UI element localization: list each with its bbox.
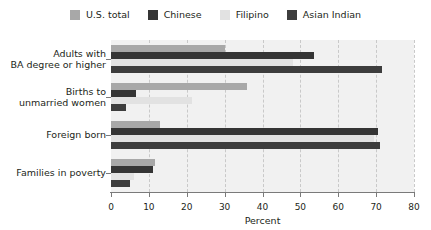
bar[interactable] bbox=[111, 180, 130, 187]
bar[interactable] bbox=[111, 104, 126, 111]
x-tick bbox=[376, 192, 377, 197]
chart-figure: U.S. totalChineseFilipinoAsian Indian 01… bbox=[0, 0, 431, 230]
x-tick-label: 70 bbox=[370, 202, 381, 212]
bar[interactable] bbox=[111, 173, 134, 180]
y-tick bbox=[106, 97, 111, 98]
x-tick bbox=[187, 192, 188, 197]
legend-label: U.S. total bbox=[86, 10, 130, 20]
x-tick bbox=[263, 192, 264, 197]
bar[interactable] bbox=[111, 52, 314, 59]
y-category-label: Births tounmarried women bbox=[19, 86, 106, 109]
bar[interactable] bbox=[111, 59, 293, 66]
legend-swatch-icon bbox=[220, 10, 230, 20]
bar[interactable] bbox=[111, 166, 153, 173]
bar[interactable] bbox=[111, 97, 192, 104]
bar[interactable] bbox=[111, 159, 155, 166]
bar-group bbox=[111, 154, 414, 192]
x-tick bbox=[149, 192, 150, 197]
chart-legend: U.S. totalChineseFilipinoAsian Indian bbox=[0, 10, 431, 20]
bar[interactable] bbox=[111, 83, 247, 90]
y-tick bbox=[106, 173, 111, 174]
y-category-label-line: Foreign born bbox=[46, 129, 106, 141]
x-tick-label: 20 bbox=[181, 202, 192, 212]
legend-swatch-icon bbox=[70, 10, 80, 20]
y-category-label-line: unmarried women bbox=[19, 97, 106, 109]
x-tick-label: 60 bbox=[333, 202, 344, 212]
bar[interactable] bbox=[111, 128, 378, 135]
x-tick-label: 10 bbox=[143, 202, 154, 212]
x-tick bbox=[338, 192, 339, 197]
legend-swatch-icon bbox=[287, 10, 297, 20]
y-tick bbox=[106, 135, 111, 136]
legend-swatch-icon bbox=[148, 10, 158, 20]
y-category-label-line: Adults with bbox=[10, 48, 106, 60]
gridline bbox=[414, 40, 415, 192]
y-category-label-line: BA degree or higher bbox=[10, 59, 106, 71]
y-category-label-line: Families in poverty bbox=[16, 167, 106, 179]
legend-label: Filipino bbox=[236, 10, 269, 20]
legend-item[interactable]: Filipino bbox=[220, 10, 269, 20]
y-category-label-line: Births to bbox=[19, 86, 106, 98]
legend-item[interactable]: Chinese bbox=[148, 10, 202, 20]
bar[interactable] bbox=[111, 121, 160, 128]
y-category-label: Foreign born bbox=[46, 129, 106, 141]
x-tick bbox=[225, 192, 226, 197]
x-tick bbox=[300, 192, 301, 197]
x-tick-label: 50 bbox=[295, 202, 306, 212]
bar[interactable] bbox=[111, 45, 225, 52]
y-category-label: Families in poverty bbox=[16, 167, 106, 179]
bar-group bbox=[111, 40, 414, 78]
x-axis-title: Percent bbox=[111, 215, 414, 226]
x-tick bbox=[414, 192, 415, 197]
y-tick bbox=[106, 59, 111, 60]
x-tick-label: 30 bbox=[219, 202, 230, 212]
legend-label: Asian Indian bbox=[303, 10, 361, 20]
legend-label: Chinese bbox=[164, 10, 202, 20]
bar[interactable] bbox=[111, 142, 380, 149]
legend-item[interactable]: Asian Indian bbox=[287, 10, 361, 20]
x-tick-label: 40 bbox=[257, 202, 268, 212]
x-tick bbox=[111, 192, 112, 197]
bar[interactable] bbox=[111, 135, 374, 142]
bar[interactable] bbox=[111, 90, 136, 97]
x-tick-label: 0 bbox=[108, 202, 114, 212]
legend-item[interactable]: U.S. total bbox=[70, 10, 130, 20]
y-category-label: Adults withBA degree or higher bbox=[10, 48, 106, 71]
bar-group bbox=[111, 116, 414, 154]
x-tick-label: 80 bbox=[408, 202, 419, 212]
bar-group bbox=[111, 78, 414, 116]
plot-area: 01020304050607080 Percent bbox=[111, 40, 414, 192]
bar[interactable] bbox=[111, 66, 382, 73]
